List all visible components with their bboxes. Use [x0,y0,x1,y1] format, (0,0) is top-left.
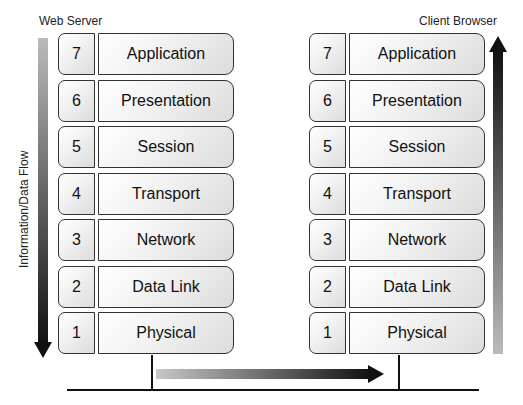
flow-label: Information/Data Flow [17,151,31,268]
layer-name: Session [98,126,234,168]
layer-number: 1 [309,312,346,354]
down-arrow-icon [33,38,53,360]
right-arrow-icon [156,364,386,384]
layer-number: 5 [309,126,346,168]
layer-name: Data Link [349,266,485,308]
layer-number: 4 [58,173,95,215]
layer-name: Network [349,219,485,261]
layer-number: 4 [309,173,346,215]
layer-number: 7 [58,33,95,75]
layer-number: 5 [58,126,95,168]
layer-number: 2 [58,266,95,308]
right-connector [398,355,400,390]
layer-name: Transport [349,173,485,215]
layer-name: Transport [98,173,234,215]
layer-name: Application [349,33,485,75]
layer-name: Session [349,126,485,168]
web-server-label: Web Server [39,14,102,28]
layer-number: 6 [58,80,95,122]
layer-name: Network [98,219,234,261]
layer-number: 2 [309,266,346,308]
network-bus-line [67,389,479,391]
layer-name: Application [98,33,234,75]
layer-name: Data Link [98,266,234,308]
client-browser-label: Client Browser [419,14,497,28]
layer-name: Presentation [349,80,485,122]
layer-name: Physical [98,312,234,354]
left-connector [151,355,153,390]
layer-name: Physical [349,312,485,354]
layer-number: 6 [309,80,346,122]
layer-number: 3 [309,219,346,261]
layer-number: 3 [58,219,95,261]
layer-name: Presentation [98,80,234,122]
layer-number: 7 [309,33,346,75]
layer-number: 1 [58,312,95,354]
up-arrow-icon [488,36,508,356]
